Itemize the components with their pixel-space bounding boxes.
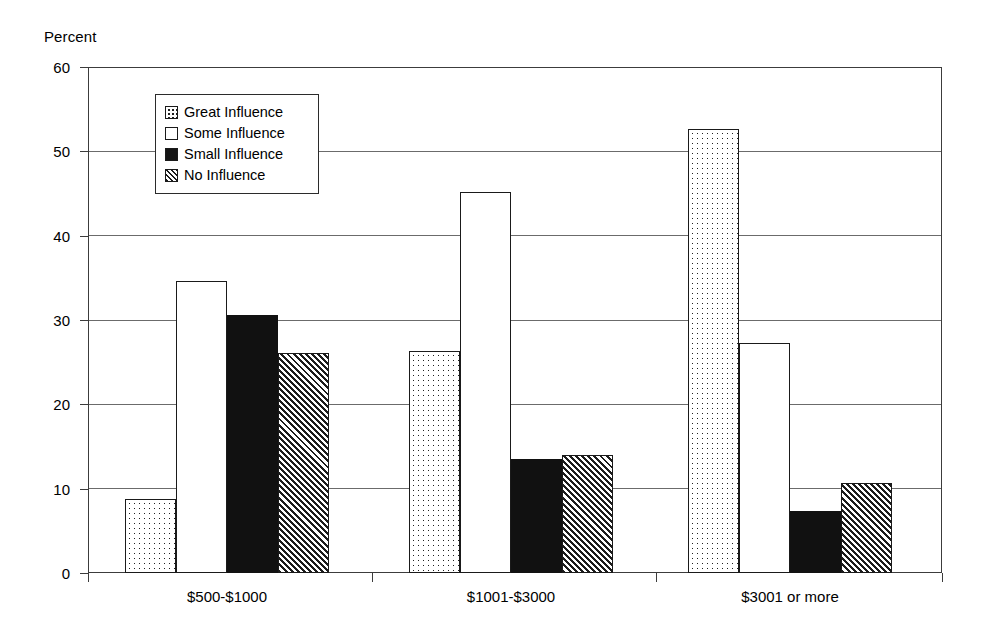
- y-axis-tick-label: 10: [26, 481, 70, 496]
- bar-chart: Percent 0102030405060 $500-$1000$1001-$3…: [0, 0, 981, 620]
- bar: [739, 343, 790, 573]
- y-axis-tick-label: 20: [26, 397, 70, 412]
- bar: [688, 129, 739, 573]
- legend-item: No Influence: [165, 165, 309, 186]
- y-axis-tick-mark: [80, 151, 88, 152]
- x-axis-tick-mark: [372, 573, 373, 582]
- legend-item-label: Small Influence: [184, 147, 283, 162]
- y-axis-tick-label: 60: [26, 60, 70, 75]
- x-axis-tick-mark: [656, 573, 657, 582]
- x-axis-category-label: $500-$1000: [187, 588, 267, 605]
- y-axis-tick-mark: [80, 489, 88, 490]
- bar: [409, 351, 460, 573]
- x-axis-category-label: $1001-$3000: [467, 588, 555, 605]
- y-axis-tick-mark: [80, 320, 88, 321]
- y-axis-tick-label: 40: [26, 228, 70, 243]
- y-axis-tick-mark: [80, 67, 88, 68]
- bar: [176, 281, 227, 573]
- legend-swatch-icon: [165, 169, 178, 182]
- bar: [511, 459, 562, 573]
- bar: [562, 455, 613, 573]
- bar: [278, 353, 329, 573]
- y-axis-tick-label: 0: [26, 566, 70, 581]
- x-axis-tick-mark: [942, 573, 943, 582]
- legend-swatch-icon: [165, 106, 178, 119]
- legend-swatch-icon: [165, 148, 178, 161]
- y-axis-tick-mark: [80, 236, 88, 237]
- legend: Great InfluenceSome InfluenceSmall Influ…: [155, 94, 319, 194]
- y-axis-tick-mark: [80, 573, 88, 574]
- legend-item-label: No Influence: [184, 168, 265, 183]
- legend-item: Small Influence: [165, 144, 309, 165]
- bar: [125, 499, 176, 573]
- bar: [227, 315, 278, 573]
- legend-item: Some Influence: [165, 123, 309, 144]
- y-axis-tick-label: 50: [26, 144, 70, 159]
- y-axis-tick-label: 30: [26, 313, 70, 328]
- legend-item-label: Some Influence: [184, 126, 285, 141]
- y-axis-title: Percent: [44, 28, 96, 45]
- legend-item: Great Influence: [165, 102, 309, 123]
- bar: [460, 192, 511, 573]
- x-axis-category-label: $3001 or more: [741, 588, 839, 605]
- bar: [841, 483, 892, 573]
- bar: [790, 511, 841, 573]
- legend-item-label: Great Influence: [184, 105, 283, 120]
- y-axis-tick-mark: [80, 404, 88, 405]
- legend-swatch-icon: [165, 127, 178, 140]
- x-axis-tick-mark: [88, 573, 89, 582]
